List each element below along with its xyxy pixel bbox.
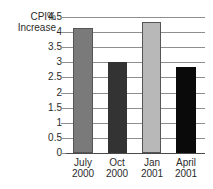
y-tick-label: 0.5: [18, 133, 62, 143]
bar-july-2000: [73, 28, 93, 153]
y-tick-mark: [61, 93, 66, 94]
axis-baseline: [66, 153, 205, 154]
x-tick-label-april-2001: April 2001: [166, 157, 206, 179]
y-tick-mark: [61, 123, 66, 124]
y-tick-label: 3: [18, 57, 62, 67]
x-label-line-2: 2001: [166, 168, 206, 179]
y-tick-mark: [61, 108, 66, 109]
x-axis-tick-labels: July 2000 Oct 2000 Jan 2001 April 2001: [66, 157, 205, 187]
x-label-line-1: Oct: [97, 157, 137, 168]
plot-area: [66, 17, 205, 153]
y-tick-mark: [61, 153, 66, 154]
y-tick-label: 3.5: [18, 42, 62, 52]
gridline: [66, 17, 205, 18]
bar-oct-2000: [108, 62, 127, 153]
x-label-line-1: April: [166, 157, 206, 168]
y-axis-tick-labels: 4.5 4 3.5 3 2.5 2 1.5 1 0.5 0: [14, 17, 62, 153]
y-tick-mark: [61, 32, 66, 33]
y-tick-label: 4.5: [18, 12, 62, 22]
bar-april-2001: [176, 67, 196, 153]
y-tick-label: 1: [18, 118, 62, 128]
y-tick-label: 4: [18, 27, 62, 37]
cpi-bar-chart: CPI% Increase 4.5 4 3.5 3 2.5 2 1.5 1 0.…: [0, 0, 213, 189]
y-tick-label: 2: [18, 88, 62, 98]
bar-jan-2001: [142, 22, 161, 153]
y-tick-label: 1.5: [18, 103, 62, 113]
x-tick-label-oct-2000: Oct 2000: [97, 157, 137, 179]
y-tick-mark: [61, 17, 66, 18]
y-tick-mark: [61, 47, 66, 48]
y-tick-mark: [61, 138, 66, 139]
x-label-line-2: 2000: [97, 168, 137, 179]
y-tick-label: 0: [18, 148, 62, 158]
y-tick-mark: [61, 62, 66, 63]
y-tick-mark: [61, 77, 66, 78]
y-tick-label: 2.5: [18, 72, 62, 82]
